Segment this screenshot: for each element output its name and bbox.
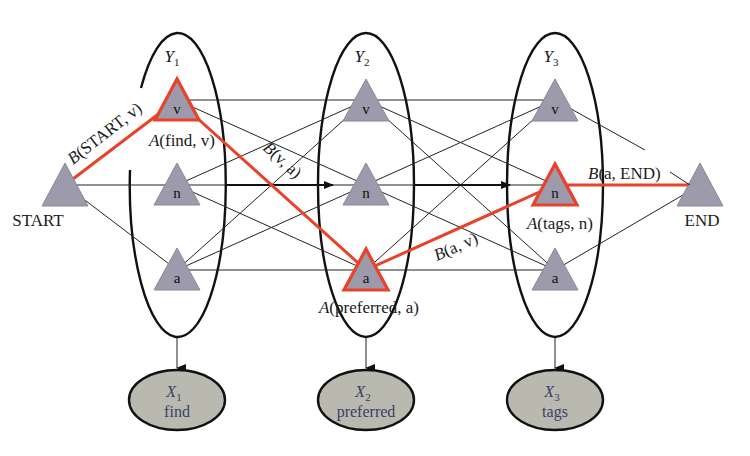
observation-x3: X3 tags bbox=[507, 370, 603, 430]
y3-label: Y3 bbox=[544, 47, 559, 68]
label-a-preferred-a: A(preferred, a) bbox=[318, 298, 419, 317]
label-b-a-end: B(a, END) bbox=[588, 164, 661, 183]
y3-n-label: n bbox=[551, 185, 559, 201]
y3-v-label: v bbox=[551, 101, 559, 117]
label-a-tags-n: A(tags, n) bbox=[526, 214, 593, 233]
y2-label: Y2 bbox=[355, 47, 370, 68]
observation-x2: X2 preferred bbox=[318, 370, 414, 430]
label-b-a-v: B(a, v) bbox=[431, 228, 481, 264]
crf-viterbi-diagram: START END Y1 v n a Y2 v n a Y3 v n a B(S… bbox=[0, 0, 750, 456]
y2-v-label: v bbox=[362, 101, 370, 117]
y1-states: Y1 v n a bbox=[154, 47, 200, 290]
y1-n-label: n bbox=[173, 185, 181, 201]
observation-x1: X1 find bbox=[129, 370, 225, 430]
b-a-end-leader bbox=[670, 172, 690, 185]
y1-label: Y1 bbox=[165, 47, 180, 68]
y1-a-label: a bbox=[174, 270, 181, 286]
start-node: START bbox=[12, 163, 88, 230]
y3-states: Y3 v n a bbox=[532, 47, 578, 290]
end-node: END bbox=[677, 163, 723, 230]
start-label: START bbox=[12, 211, 64, 230]
y1-v-label: v bbox=[173, 101, 181, 117]
y2-a-label: a bbox=[363, 270, 370, 286]
end-label: END bbox=[685, 211, 720, 230]
x2-word: preferred bbox=[337, 403, 396, 421]
y3-a-label: a bbox=[552, 270, 559, 286]
x1-word: find bbox=[164, 403, 190, 420]
emission-arrows bbox=[177, 338, 555, 368]
y2-n-label: n bbox=[362, 185, 370, 201]
x3-word: tags bbox=[542, 403, 568, 421]
label-a-find-v: A(find, v) bbox=[148, 131, 215, 150]
